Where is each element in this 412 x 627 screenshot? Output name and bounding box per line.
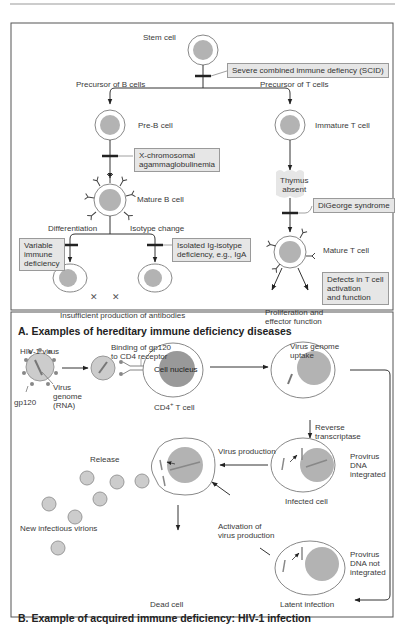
uptake-label: Virus genomeuptake [290, 342, 339, 360]
plasma-cell-right [138, 264, 172, 292]
gp120-label: gp120 [14, 398, 36, 407]
digeorge-defect-box: DiGeorge syndrome [313, 198, 395, 213]
pre-b-cell [95, 110, 125, 140]
release-label: Release [90, 455, 119, 464]
hiv-label: HIV-1 virus [20, 347, 59, 356]
infected-cell [271, 438, 335, 492]
mature-t-cell [267, 229, 315, 273]
producing-cell [151, 438, 215, 495]
genome-label: Virusgenome(RNA) [53, 383, 82, 410]
variable-defect-box: Variableimmunedeficiency [19, 238, 65, 271]
infected-label: Infected cell [285, 497, 328, 506]
tcell-defect-box: Defects in T cellactivationand function [322, 272, 389, 305]
pre-b-label: Pre-B cell [138, 121, 173, 130]
precursor-t-label: Precursor of T cells [260, 80, 329, 89]
precursor-b-label: Precursor of B cells [76, 80, 145, 89]
cd4-cell-label: CD4+ T cell [154, 400, 195, 412]
differentiation-label: Differentiation [48, 224, 97, 233]
nucleus-label: Cell nucleus [154, 365, 198, 374]
svg-text:✕: ✕ [90, 292, 98, 302]
panel-a-title: A. Examples of hereditary immune deficie… [18, 325, 292, 337]
immature-t-label: Immature T cell [315, 121, 370, 130]
provirus-not-label: ProvirusDNA notintegrated [350, 550, 386, 577]
stem-cell-label: Stem cell [143, 33, 176, 42]
latent-cell [275, 541, 345, 595]
new-virions-label: New infectious virions [20, 524, 97, 533]
panel-b-title: B. Example of acquired immune deficiency… [18, 612, 311, 624]
provirus-integrated-label: ProvirusDNAintegrated [350, 452, 386, 479]
thymus-absent-label: Thymusabsent [280, 176, 308, 194]
immature-t-cell [275, 110, 305, 140]
stem-cell [188, 35, 218, 65]
scid-defect-box: Severe combined immune defiency (SCID) [227, 63, 389, 78]
svg-text:✕: ✕ [112, 292, 120, 302]
activation-label: Activation ofvirus production [218, 522, 274, 540]
xla-defect-box: X-chromosomalagammaglobulinemia [134, 148, 220, 172]
dead-cell-label: Dead cell [150, 600, 183, 609]
isotype-change-label: Isotype change [130, 224, 184, 233]
mature-t-label: Mature T cell [323, 246, 369, 255]
rt-label: Reversetranscriptase [315, 423, 361, 441]
mature-b-label: Mature B cell [137, 195, 184, 204]
virus-production-label: Virus production [218, 447, 276, 456]
insufficient-label: Insufficient production of antibodies [60, 311, 185, 320]
virions [42, 471, 149, 555]
mature-b-cell [85, 174, 136, 220]
latent-label: Latent infection [280, 600, 334, 609]
isolated-defect-box: Isolated Ig-isotypedeficiency, e.g., IgA [172, 238, 251, 262]
proliferation-label: Proliferation andeffector function [265, 308, 323, 326]
binding-label: Binding of gp120to CD4 receptor [111, 343, 171, 361]
